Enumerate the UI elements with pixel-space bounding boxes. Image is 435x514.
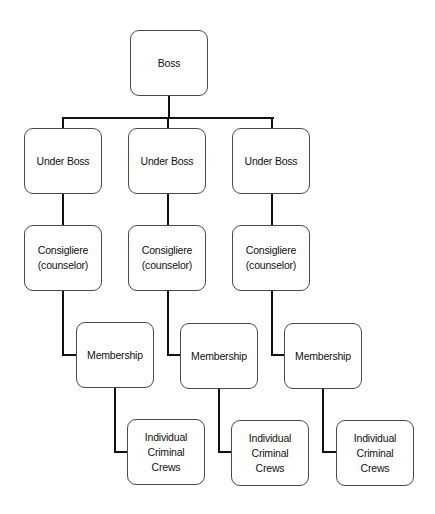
connector-underboss-consigliere-2	[167, 193, 169, 226]
connector-membership-crews-1-h	[114, 451, 128, 453]
connector-consigliere-membership-3-v	[271, 290, 273, 356]
connector-membership-crews-3-v	[322, 388, 324, 453]
node-label-line1: Consigliere	[38, 243, 88, 258]
node-label: Under Boss	[245, 154, 298, 169]
node-consigliere-2: Consigliere (counselor)	[128, 225, 206, 291]
node-label-line2: (counselor)	[246, 258, 296, 273]
connector-consigliere-membership-2-h	[167, 354, 181, 356]
node-crews-2: Individual Criminal Crews	[231, 420, 309, 486]
node-label-line1: Consigliere	[246, 243, 296, 258]
node-label: Membership	[191, 349, 247, 364]
node-label-line1: Consigliere	[142, 243, 192, 258]
node-label-line2: Crews	[256, 461, 285, 476]
connector-underboss-consigliere-3	[271, 193, 273, 226]
node-crews-1: Individual Criminal Crews	[127, 419, 205, 485]
node-label: Under Boss	[141, 154, 194, 169]
node-label: Membership	[295, 349, 351, 364]
connector-consigliere-membership-1-v	[62, 290, 64, 356]
org-chart: Boss Under Boss Under Boss Under Boss Co…	[0, 0, 435, 514]
connector-underboss-consigliere-1	[62, 193, 64, 226]
node-membership-3: Membership	[284, 323, 362, 389]
connector-membership-crews-2-v	[218, 388, 220, 453]
node-label: Under Boss	[37, 154, 90, 169]
node-under-boss-2: Under Boss	[128, 128, 206, 194]
node-consigliere-3: Consigliere (counselor)	[232, 225, 310, 291]
connector-consigliere-membership-1-h	[62, 354, 77, 356]
node-membership-2: Membership	[180, 323, 258, 389]
node-boss: Boss	[130, 30, 208, 96]
connector-membership-crews-2-h	[218, 451, 232, 453]
connector-membership-crews-3-h	[322, 451, 337, 453]
node-under-boss-1: Under Boss	[24, 128, 102, 194]
node-label-line1: Individual Criminal	[232, 431, 308, 461]
node-label-line2: Crews	[152, 460, 181, 475]
node-consigliere-1: Consigliere (counselor)	[24, 225, 102, 291]
node-crews-3: Individual Criminal Crews	[336, 420, 414, 486]
node-label-line1: Individual Criminal	[128, 430, 204, 460]
node-membership-1: Membership	[76, 322, 154, 388]
node-under-boss-3: Under Boss	[232, 128, 310, 194]
node-label: Boss	[158, 56, 181, 71]
connector-consigliere-membership-3-h	[271, 354, 285, 356]
connector-membership-crews-1-v	[114, 388, 116, 453]
node-label-line2: Crews	[361, 461, 390, 476]
connector-boss-down	[168, 95, 170, 119]
node-label: Membership	[87, 348, 143, 363]
node-label-line1: Individual Criminal	[337, 431, 413, 461]
node-label-line2: (counselor)	[142, 258, 192, 273]
node-label-line2: (counselor)	[38, 258, 88, 273]
connector-consigliere-membership-2-v	[167, 290, 169, 356]
